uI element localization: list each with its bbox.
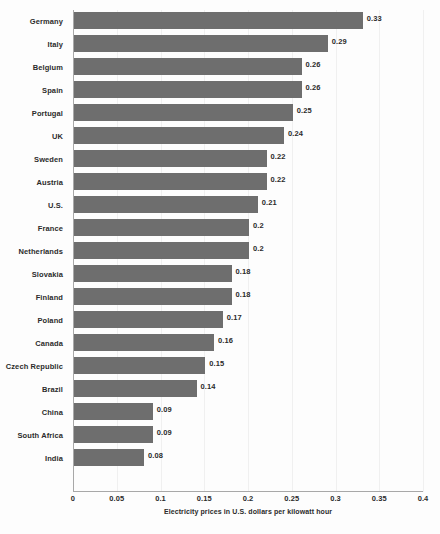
bar[interactable] (74, 150, 267, 167)
category-label: Portugal (32, 102, 63, 125)
bar-value-label: 0.08 (148, 451, 163, 460)
bar[interactable] (74, 288, 232, 305)
bar-value-label: 0.26 (306, 60, 321, 69)
x-tick-label: 0.1 (155, 494, 166, 503)
category-label: France (38, 217, 63, 240)
x-tick-label: 0 (71, 494, 75, 503)
bar-value-label: 0.15 (209, 359, 224, 368)
category-label: UK (52, 125, 63, 148)
category-label: Canada (35, 332, 63, 355)
bar[interactable] (74, 35, 328, 52)
bar-value-label: 0.22 (271, 152, 286, 161)
category-label: Netherlands (19, 240, 63, 263)
bar-row[interactable]: 0.2 (73, 240, 423, 263)
category-label: Italy (47, 33, 63, 56)
bar-row[interactable]: 0.26 (73, 79, 423, 102)
bar-value-label: 0.2 (253, 221, 264, 230)
bar-value-label: 0.18 (236, 290, 251, 299)
x-tick-label: 0.15 (197, 494, 212, 503)
category-label: China (42, 401, 63, 424)
bar[interactable] (74, 196, 258, 213)
bar-row[interactable]: 0.21 (73, 194, 423, 217)
bar-value-label: 0.22 (271, 175, 286, 184)
bar-value-label: 0.24 (288, 129, 303, 138)
bar-value-label: 0.26 (306, 83, 321, 92)
bar-row[interactable]: 0.18 (73, 263, 423, 286)
bar-value-label: 0.14 (201, 382, 216, 391)
bar[interactable] (74, 12, 363, 29)
bar-row[interactable]: 0.14 (73, 378, 423, 401)
category-label: India (45, 447, 63, 470)
bar-row[interactable]: 0.33 (73, 10, 423, 33)
bar[interactable] (74, 219, 249, 236)
bar-row[interactable]: 0.18 (73, 286, 423, 309)
bar-chart: GermanyItalyBelgiumSpainPortugalUKSweden… (0, 0, 440, 534)
bar[interactable] (74, 334, 214, 351)
category-label: U.S. (48, 194, 63, 217)
bar-value-label: 0.16 (218, 336, 233, 345)
bar-row[interactable]: 0.22 (73, 171, 423, 194)
bar-row[interactable]: 0.09 (73, 424, 423, 447)
category-label: Germany (30, 10, 63, 33)
bar-value-label: 0.09 (157, 428, 172, 437)
bar[interactable] (74, 357, 205, 374)
bar-row[interactable]: 0.26 (73, 56, 423, 79)
category-axis-labels: GermanyItalyBelgiumSpainPortugalUKSweden… (0, 10, 68, 492)
x-axis-title: Electricity prices in U.S. dollars per k… (73, 508, 423, 515)
bar[interactable] (74, 173, 267, 190)
plot-area: 0.330.290.260.260.250.240.220.220.210.20… (73, 10, 423, 492)
category-label: Belgium (33, 56, 63, 79)
category-label: Slovakia (32, 263, 63, 286)
bar[interactable] (74, 449, 144, 466)
category-label: South Africa (17, 424, 63, 447)
category-label: Brazil (42, 378, 63, 401)
bar-value-label: 0.17 (227, 313, 242, 322)
bar[interactable] (74, 403, 153, 420)
bar[interactable] (74, 426, 153, 443)
x-tick-label: 0.35 (372, 494, 387, 503)
category-label: Sweden (34, 148, 63, 171)
bar-row[interactable]: 0.29 (73, 33, 423, 56)
bar[interactable] (74, 380, 197, 397)
bar-value-label: 0.18 (236, 267, 251, 276)
bar[interactable] (74, 58, 302, 75)
bar-row[interactable]: 0.2 (73, 217, 423, 240)
x-axis-ticks: 00.050.10.150.20.250.30.350.4 (73, 494, 423, 506)
bar-rows: 0.330.290.260.260.250.240.220.220.210.20… (73, 10, 423, 492)
bar[interactable] (74, 311, 223, 328)
category-label: Finland (36, 286, 63, 309)
x-tick-label: 0.25 (284, 494, 299, 503)
bar-row[interactable]: 0.15 (73, 355, 423, 378)
bar-value-label: 0.33 (367, 14, 382, 23)
bar-value-label: 0.21 (262, 198, 277, 207)
bar-row[interactable]: 0.24 (73, 125, 423, 148)
bar-row[interactable]: 0.17 (73, 309, 423, 332)
bar-row[interactable]: 0.22 (73, 148, 423, 171)
bar-row[interactable]: 0.08 (73, 447, 423, 470)
bar-value-label: 0.29 (332, 37, 347, 46)
x-tick-label: 0.4 (418, 494, 429, 503)
bar[interactable] (74, 242, 249, 259)
bar-row[interactable]: 0.16 (73, 332, 423, 355)
bar[interactable] (74, 81, 302, 98)
bar-row[interactable]: 0.25 (73, 102, 423, 125)
category-label: Czech Republic (6, 355, 63, 378)
gridline (423, 10, 424, 492)
category-label: Spain (42, 79, 63, 102)
bar-value-label: 0.09 (157, 405, 172, 414)
x-tick-label: 0.2 (243, 494, 254, 503)
category-label: Poland (37, 309, 63, 332)
bar-value-label: 0.25 (297, 106, 312, 115)
bar[interactable] (74, 104, 293, 121)
bar[interactable] (74, 127, 284, 144)
x-tick-label: 0.3 (330, 494, 341, 503)
x-tick-label: 0.05 (109, 494, 124, 503)
bar-row[interactable]: 0.09 (73, 401, 423, 424)
bar[interactable] (74, 265, 232, 282)
category-label: Austria (36, 171, 63, 194)
bar-value-label: 0.2 (253, 244, 264, 253)
